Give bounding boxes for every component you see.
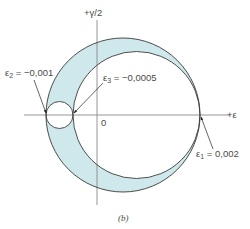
origin-label: 0 bbox=[101, 117, 106, 128]
mohr-strain-circle-diagram: +γ/2 +ε 0 ε2 = −0,001 ε3 = −0,0005 ε1 = … bbox=[0, 0, 250, 229]
epsilon-1-pointer bbox=[201, 117, 213, 149]
epsilon-2-label: ε2 = −0,001 bbox=[5, 67, 53, 79]
epsilon-1-label: ε1 = 0,002 bbox=[196, 148, 239, 160]
epsilon-3-label: ε3 = −0,0005 bbox=[103, 72, 157, 84]
vertical-axis-label: +γ/2 bbox=[84, 7, 102, 18]
figure-caption: (b) bbox=[118, 213, 129, 223]
epsilon-2-pointer bbox=[34, 80, 46, 113]
horizontal-axis-label: +ε bbox=[227, 109, 238, 120]
